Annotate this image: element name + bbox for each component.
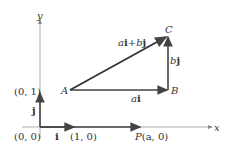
label-p: P(a, 0) xyxy=(134,131,168,142)
label-c: C xyxy=(165,24,173,35)
label-vector-sum: ai+bj xyxy=(118,37,146,48)
label-vector-bj: bj xyxy=(170,55,180,66)
label-unit-x: (1, 0) xyxy=(70,131,97,142)
y-axis-label: y xyxy=(36,10,43,21)
label-unit-y: (0, 1) xyxy=(14,86,41,97)
x-axis-label: x xyxy=(214,122,220,133)
label-a: A xyxy=(60,85,68,96)
label-vector-i: i xyxy=(55,131,59,142)
label-vector-ai: ai xyxy=(131,93,141,104)
label-b: B xyxy=(170,85,178,96)
vector-diagram: y x (0, 0) (0, 1) (1, 0) A B C P(a, 0) i… xyxy=(0,0,231,150)
label-origin: (0, 0) xyxy=(14,131,41,142)
label-vector-j: j xyxy=(31,105,36,116)
